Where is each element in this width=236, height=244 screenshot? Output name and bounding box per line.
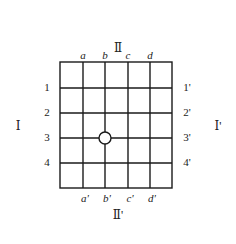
bottom-side-label: Ⅱ': [113, 210, 123, 221]
column-label-top-d: d: [147, 50, 153, 61]
circle-marker: [99, 132, 111, 144]
top-side-label: Ⅱ: [114, 43, 122, 54]
row-label-right-2: 2': [183, 107, 190, 118]
column-label-bottom-a: a': [81, 193, 89, 204]
column-label-bottom-b: b': [103, 193, 111, 204]
row-label-right-4: 4': [183, 157, 190, 168]
column-label-bottom-d: d': [148, 193, 156, 204]
grid-border: [60, 62, 172, 188]
column-label-bottom-c: c': [126, 193, 133, 204]
column-label-top-b: b: [102, 50, 108, 61]
row-label-right-3: 3': [183, 132, 190, 143]
column-label-top-a: a: [80, 50, 86, 61]
row-label-left-3: 3: [44, 132, 50, 143]
row-label-left-2: 2: [44, 107, 50, 118]
grid-lines: [60, 62, 172, 188]
row-label-left-4: 4: [44, 157, 50, 168]
row-label-right-1: 1': [183, 82, 190, 93]
column-label-top-c: c: [126, 50, 131, 61]
right-side-label: Ⅰ': [215, 121, 222, 132]
left-side-label: Ⅰ: [16, 121, 21, 132]
row-label-left-1: 1: [44, 82, 50, 93]
